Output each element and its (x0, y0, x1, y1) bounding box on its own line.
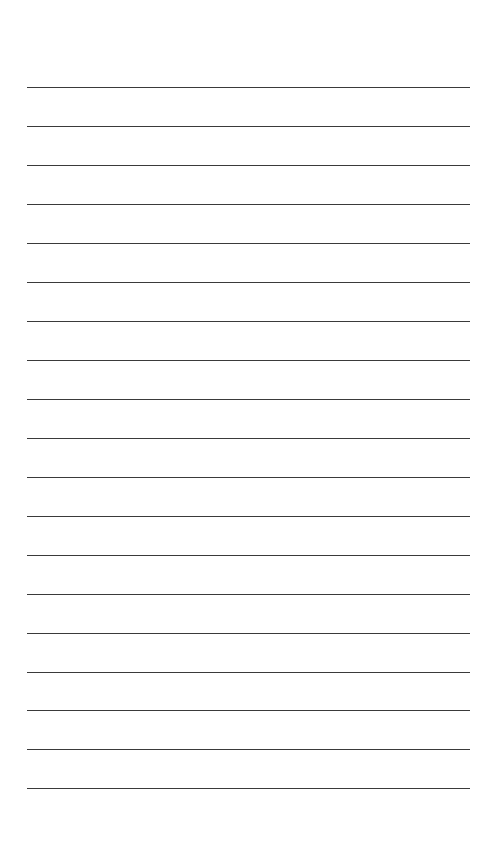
ruled-line (27, 165, 470, 166)
ruled-line (27, 360, 470, 361)
ruled-line (27, 594, 470, 595)
ruled-line (27, 282, 470, 283)
ruled-line (27, 204, 470, 205)
ruled-line (27, 477, 470, 478)
ruled-line (27, 516, 470, 517)
ruled-line (27, 555, 470, 556)
ruled-line (27, 87, 470, 88)
ruled-line (27, 399, 470, 400)
lined-paper-page (0, 0, 485, 849)
ruled-line (27, 749, 470, 750)
ruled-line (27, 633, 470, 634)
ruled-line (27, 321, 470, 322)
ruled-line (27, 438, 470, 439)
ruled-line (27, 788, 470, 789)
ruled-line (27, 243, 470, 244)
ruled-line (27, 126, 470, 127)
ruled-line (27, 710, 470, 711)
ruled-line (27, 672, 470, 673)
